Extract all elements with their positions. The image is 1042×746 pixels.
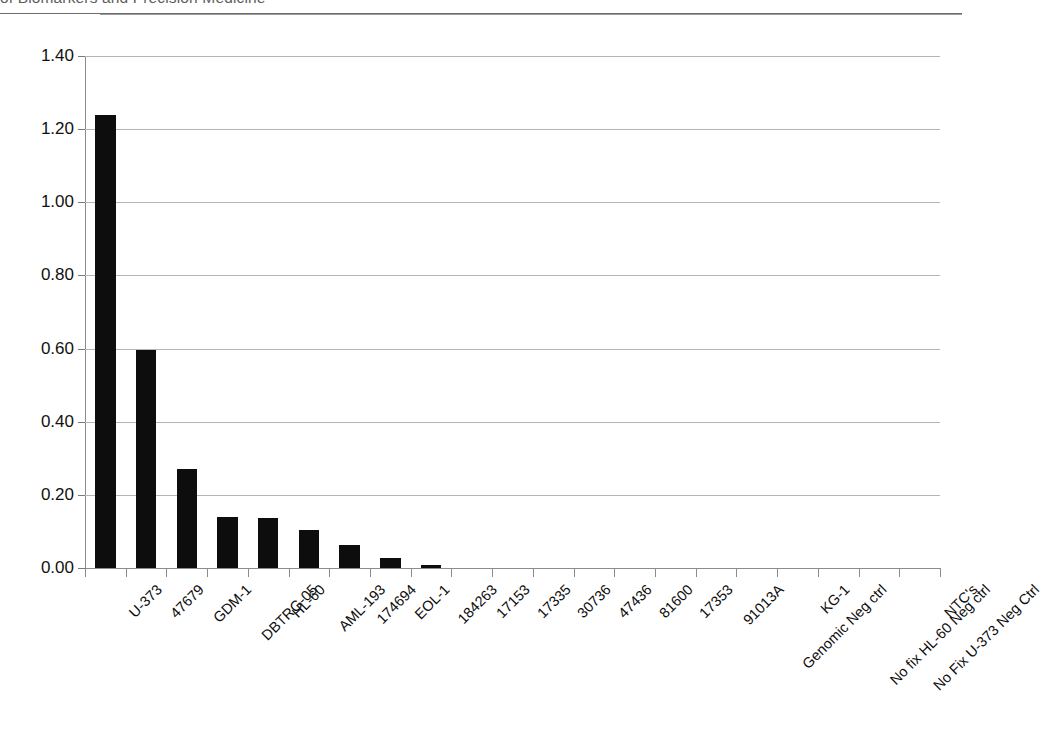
bar (421, 565, 441, 568)
bar (177, 469, 197, 568)
x-axis-tick-label: 17335 (534, 582, 573, 621)
y-axis-tick-label: 1.40 (18, 47, 74, 64)
plot-area (85, 56, 940, 568)
bar (136, 350, 156, 568)
x-axis-tick-label: 81600 (656, 582, 695, 621)
x-axis-tick-mark (411, 569, 412, 577)
x-axis-line (85, 568, 941, 569)
x-axis-tick-mark (126, 569, 127, 577)
x-axis-tick-label: 91013A (741, 582, 787, 628)
x-axis-tick-mark (696, 569, 697, 577)
x-axis-tick-label: HL-60 (290, 582, 329, 621)
x-axis-tick-label: U-373 (127, 582, 166, 621)
bar (258, 518, 278, 568)
gridline (85, 422, 940, 423)
x-axis-tick-mark (207, 569, 208, 577)
y-axis-tick-label: 0.60 (18, 340, 74, 357)
x-axis-tick-label: 47436 (616, 582, 655, 621)
y-axis-tick-label: 0.80 (18, 266, 74, 283)
bar (217, 517, 237, 568)
x-axis-tick-label: GDM-1 (210, 582, 254, 626)
gridline (85, 202, 940, 203)
x-axis-tick-mark (940, 569, 941, 577)
x-axis-tick-mark (777, 569, 778, 577)
y-axis-tick-label: 0.20 (18, 486, 74, 503)
x-axis-tick-mark (533, 569, 534, 577)
gridline (85, 349, 940, 350)
x-axis-tick-mark (736, 569, 737, 577)
x-axis-tick-label: 184263 (455, 582, 500, 627)
bar (95, 115, 115, 568)
x-axis-tick-mark (451, 569, 452, 577)
x-axis-tick-mark (574, 569, 575, 577)
bar (380, 558, 400, 568)
bar (339, 545, 359, 568)
gridline (85, 275, 940, 276)
x-axis-tick-mark (492, 569, 493, 577)
x-axis-tick-mark (329, 569, 330, 577)
gridline (85, 129, 940, 130)
bar (299, 530, 319, 568)
x-axis-tick-label: 17153 (494, 582, 533, 621)
x-axis-tick-label: EOL-1 (413, 582, 453, 622)
y-axis-tick-label: 0.40 (18, 413, 74, 430)
gridline (85, 56, 940, 57)
x-axis-tick-mark (899, 569, 900, 577)
y-axis-tick-label: 1.20 (18, 120, 74, 137)
x-axis-tick-mark (85, 569, 86, 577)
x-axis-tick-label: 30736 (575, 582, 614, 621)
x-axis-tick-label: 17353 (697, 582, 736, 621)
x-axis-tick-mark (370, 569, 371, 577)
x-axis-tick-mark (614, 569, 615, 577)
x-axis-tick-mark (289, 569, 290, 577)
x-axis-tick-mark (248, 569, 249, 577)
y-axis-tick-label: 1.00 (18, 193, 74, 210)
y-axis-tick-label: 0.00 (18, 559, 74, 576)
x-axis-tick-label: 47679 (168, 582, 207, 621)
gridline (85, 495, 940, 496)
x-axis-tick-mark (818, 569, 819, 577)
x-axis-tick-mark (859, 569, 860, 577)
x-axis-tick-mark (166, 569, 167, 577)
x-axis-tick-mark (655, 569, 656, 577)
